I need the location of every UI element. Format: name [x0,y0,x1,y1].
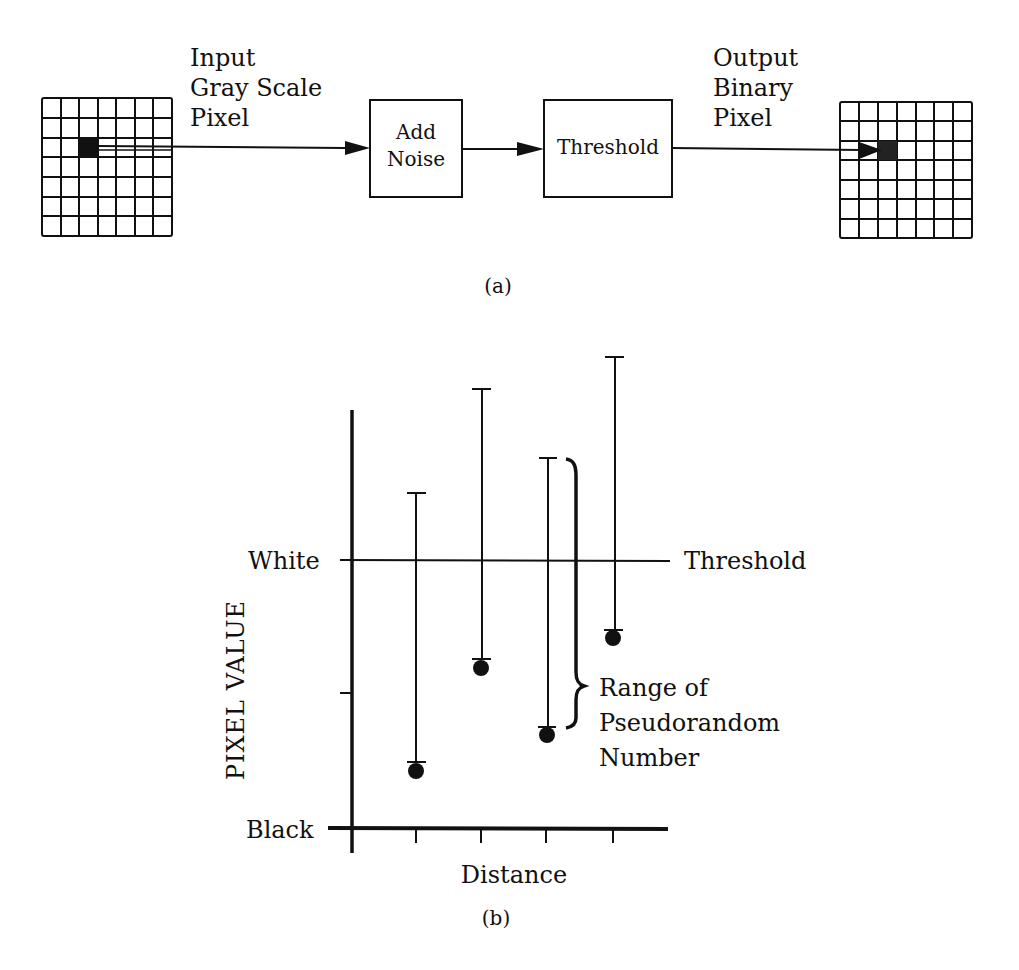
noise-bar-1 [407,493,426,779]
y-axis-label: PIXEL VALUE [222,600,250,780]
noise-bar-3 [538,458,557,743]
input-pixel-highlight [80,139,98,157]
noise-bar-4 [604,357,624,646]
input-label-line2: Gray Scale [190,74,322,102]
noise-bar-2 [472,389,491,676]
arrow-input-to-noise [98,141,370,155]
output-pixel-grid [840,102,972,238]
brace-label-line3: Number [599,744,700,772]
add-noise-label-line1: Add [395,120,436,144]
input-label-line3: Pixel [190,104,249,132]
y-black-label: Black [246,816,314,844]
add-noise-block: Add Noise [370,100,462,197]
input-pixel-grid [42,98,172,236]
output-pixel-highlight [859,141,897,160]
arrow-noise-to-threshold [462,142,544,156]
y-white-label: White [248,547,320,575]
range-brace [566,459,584,728]
arrow-threshold-to-output [672,148,862,150]
output-label-line2: Binary [713,74,794,102]
output-label-line1: Output [713,44,799,72]
panel-b: PIXEL VALUE Black White Threshold [222,357,806,930]
caption-a: (a) [484,274,512,298]
threshold-block-label: Threshold [557,135,659,159]
x-axis-ticks [416,830,613,843]
brace-label-line2: Pseudorandom [599,709,780,737]
brace-label-line1: Range of [599,674,710,702]
x-axis-label: Distance [461,861,567,889]
black-baseline [328,828,668,829]
output-label-line3: Pixel [713,104,772,132]
caption-b: (b) [482,906,510,930]
threshold-label: Threshold [684,547,806,575]
panel-a: Input Gray Scale Pixel Add Noise Thresho… [42,44,972,298]
threshold-block: Threshold [544,100,672,197]
threshold-line [340,560,670,561]
add-noise-label-line2: Noise [387,147,445,171]
input-label-line1: Input [190,44,256,72]
